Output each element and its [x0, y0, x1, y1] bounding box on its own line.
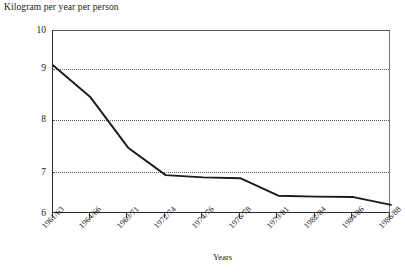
y-tick-label-7: 7	[26, 167, 46, 177]
plot-area	[52, 30, 390, 213]
chart-container: Kilogram per year per person 10 9 8 7 6 …	[0, 0, 405, 276]
x-axis-title: Years	[213, 252, 232, 262]
y-tick-label-9: 9	[26, 63, 46, 73]
series-line-consumption	[53, 31, 391, 214]
y-tick-label-6: 6	[26, 208, 46, 218]
y-tick-label-8: 8	[26, 114, 46, 124]
y-tick-label-10: 10	[26, 25, 46, 35]
